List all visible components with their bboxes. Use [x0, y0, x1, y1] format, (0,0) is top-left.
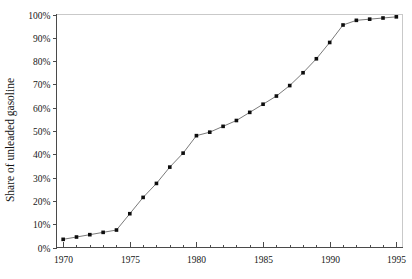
data-point-marker — [208, 130, 212, 134]
series-markers-unleaded-share — [61, 15, 398, 241]
chart-figure: 0%10%20%30%40%50%60%70%80%90%100% 197019… — [0, 0, 412, 279]
y-tick-label: 70% — [33, 80, 51, 90]
data-point-marker — [395, 15, 399, 19]
data-point-marker — [315, 57, 319, 61]
data-point-marker — [288, 84, 292, 88]
data-point-marker — [141, 196, 145, 200]
data-point-marker — [355, 19, 359, 23]
data-point-marker — [115, 228, 119, 232]
y-axis-title: Share of unleaded gasoline — [4, 78, 17, 202]
data-point-marker — [155, 182, 159, 186]
data-point-marker — [275, 94, 279, 98]
series-line-unleaded-share — [63, 17, 396, 240]
x-tick-label: 1995 — [387, 255, 406, 265]
y-tick-label: 0% — [38, 244, 51, 254]
x-tick-label: 1980 — [187, 255, 206, 265]
x-tick-label: 1990 — [321, 255, 340, 265]
data-series-group — [61, 15, 398, 241]
plot-frame — [56, 14, 403, 247]
y-tick-label: 80% — [33, 57, 51, 67]
y-tick-label: 100% — [28, 11, 50, 21]
y-tick-label: 10% — [33, 220, 51, 230]
data-point-marker — [381, 16, 385, 20]
data-point-marker — [195, 134, 199, 138]
data-point-marker — [181, 151, 185, 155]
line-chart: 0%10%20%30%40%50%60%70%80%90%100% 197019… — [0, 0, 412, 279]
x-tick-label: 1970 — [54, 255, 73, 265]
y-axis-ticks: 0%10%20%30%40%50%60%70%80%90%100% — [28, 11, 56, 254]
data-point-marker — [101, 231, 105, 235]
data-point-marker — [235, 119, 239, 123]
data-point-marker — [61, 238, 65, 242]
data-point-marker — [128, 212, 132, 216]
x-tick-label: 1975 — [121, 255, 140, 265]
data-point-marker — [368, 17, 372, 21]
x-axis-ticks: 197019751980198519901995 — [54, 242, 406, 265]
data-point-marker — [248, 111, 252, 115]
y-tick-label: 20% — [33, 197, 51, 207]
y-tick-label: 40% — [33, 150, 51, 160]
data-point-marker — [261, 102, 265, 106]
data-point-marker — [168, 165, 172, 169]
data-point-marker — [88, 233, 92, 237]
data-point-marker — [328, 41, 332, 45]
y-tick-label: 90% — [33, 34, 51, 44]
x-tick-label: 1985 — [254, 255, 273, 265]
data-point-marker — [221, 125, 225, 129]
data-point-marker — [301, 71, 305, 75]
y-tick-label: 30% — [33, 174, 51, 184]
y-tick-label: 50% — [33, 127, 51, 137]
y-tick-label: 60% — [33, 104, 51, 114]
data-point-marker — [341, 23, 345, 27]
axis-lines — [56, 14, 403, 248]
data-point-marker — [75, 235, 79, 239]
